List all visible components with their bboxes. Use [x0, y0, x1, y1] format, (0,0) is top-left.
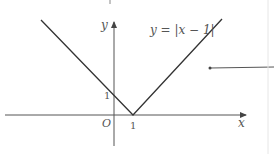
y-axis-label: y	[100, 18, 108, 32]
graph-canvas: y x O 1 1 y = |x − 1|	[0, 0, 274, 154]
pointer-dot	[209, 67, 212, 70]
y-tick-1: 1	[104, 90, 110, 101]
x-axis-label: x	[238, 116, 245, 130]
pointer-line	[210, 67, 274, 68]
origin-label: O	[102, 117, 111, 130]
function-label: y = |x − 1|	[149, 23, 215, 37]
x-tick-1: 1	[130, 120, 136, 131]
